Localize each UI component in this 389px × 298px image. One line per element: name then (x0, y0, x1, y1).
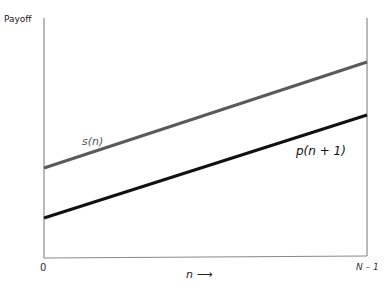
x-tick-start: 0 (40, 262, 46, 273)
series-p-label: p(n + 1) (296, 144, 346, 158)
x-axis (44, 256, 367, 258)
series-s-label: s(n) (82, 135, 103, 148)
x-tick-end: N – 1 (356, 262, 379, 272)
x-axis-label-text: n (186, 268, 193, 281)
x-axis-label: n⟶ (186, 268, 212, 281)
series-p-line (44, 115, 367, 218)
y-axis-label: Payoff (4, 14, 32, 24)
right-arrow-icon: ⟶ (197, 268, 212, 281)
